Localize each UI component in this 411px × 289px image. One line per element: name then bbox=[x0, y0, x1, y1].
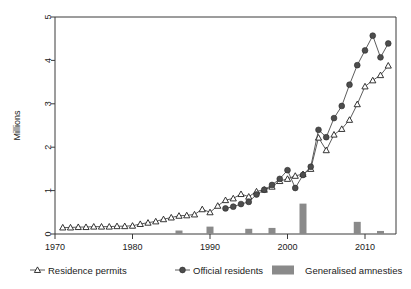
marker-official-residents-1996 bbox=[254, 192, 260, 198]
marker-official-residents-1998 bbox=[269, 182, 275, 188]
marker-official-residents-1992 bbox=[223, 205, 229, 211]
marker-official-residents-2006 bbox=[331, 115, 337, 121]
marker-official-residents-1995 bbox=[246, 199, 252, 205]
series-line-2 bbox=[226, 36, 389, 209]
amnesty-bar-1995 bbox=[245, 229, 252, 234]
y-tick-label-2: 2 bbox=[43, 145, 53, 150]
x-tick-label-1980: 1980 bbox=[122, 242, 142, 252]
series-line-1 bbox=[63, 66, 389, 228]
legend-marker-filled-circle-icon bbox=[180, 267, 186, 273]
marker-residence-permits-1993 bbox=[230, 195, 236, 201]
marker-official-residents-2005 bbox=[323, 134, 329, 140]
marker-official-residents-2002 bbox=[300, 172, 306, 178]
legend-label-generalised-amnesties: Generalised amnesties bbox=[305, 265, 402, 276]
marker-residence-permits-2009 bbox=[354, 101, 360, 107]
y-tick-label-4: 4 bbox=[43, 58, 53, 63]
amnesty-bar-2009 bbox=[354, 222, 361, 234]
marker-official-residents-2011 bbox=[370, 33, 376, 39]
marker-official-residents-1993 bbox=[230, 204, 236, 210]
y-axis-title: Millions bbox=[12, 110, 22, 141]
marker-residence-permits-1989 bbox=[199, 206, 205, 212]
marker-residence-permits-2008 bbox=[346, 117, 352, 123]
marker-residence-permits-2005 bbox=[323, 147, 329, 153]
amnesty-bar-1998 bbox=[269, 228, 276, 234]
amnesty-bar-2002 bbox=[300, 204, 307, 234]
marker-residence-permits-1988 bbox=[191, 211, 197, 217]
marker-official-residents-2001 bbox=[292, 185, 298, 191]
amnesty-bar-1990 bbox=[207, 227, 214, 234]
marker-official-residents-2008 bbox=[347, 82, 353, 88]
chart-figure: 012345Millions19701980199020002010Reside… bbox=[0, 0, 411, 289]
marker-official-residents-2007 bbox=[339, 103, 345, 109]
y-tick-label-3: 3 bbox=[43, 101, 53, 106]
marker-official-residents-2012 bbox=[378, 54, 384, 60]
marker-official-residents-2003 bbox=[308, 164, 314, 170]
y-tick-label-0: 0 bbox=[43, 231, 53, 236]
marker-residence-permits-1994 bbox=[238, 191, 244, 197]
x-tick-label-2000: 2000 bbox=[277, 242, 297, 252]
marker-official-residents-2013 bbox=[385, 41, 391, 47]
marker-official-residents-2000 bbox=[285, 167, 291, 173]
marker-residence-permits-2000 bbox=[284, 176, 290, 182]
marker-official-residents-2004 bbox=[316, 127, 322, 133]
amnesty-bar-2012 bbox=[377, 231, 384, 234]
marker-residence-permits-2013 bbox=[385, 63, 391, 69]
amnesty-bar-1986 bbox=[176, 231, 183, 234]
x-tick-label-1970: 1970 bbox=[45, 242, 65, 252]
legend-label-official-residents: Official residents bbox=[193, 265, 263, 276]
x-tick-label-1990: 1990 bbox=[200, 242, 220, 252]
marker-official-residents-1994 bbox=[238, 201, 244, 207]
marker-residence-permits-2011 bbox=[370, 77, 376, 83]
x-tick-label-2010: 2010 bbox=[355, 242, 375, 252]
y-tick-label-5: 5 bbox=[43, 14, 53, 19]
marker-official-residents-2010 bbox=[362, 48, 368, 54]
marker-official-residents-1999 bbox=[277, 176, 283, 182]
marker-official-residents-2009 bbox=[354, 62, 360, 68]
legend-marker-gray-bar-icon bbox=[272, 266, 294, 275]
legend-label-residence-permits: Residence permits bbox=[48, 265, 127, 276]
marker-residence-permits-2006 bbox=[331, 132, 337, 138]
y-tick-label-1: 1 bbox=[43, 188, 53, 193]
marker-residence-permits-1991 bbox=[215, 203, 221, 209]
marker-official-residents-1997 bbox=[261, 187, 267, 193]
line-chart: 012345Millions19701980199020002010Reside… bbox=[0, 0, 411, 289]
